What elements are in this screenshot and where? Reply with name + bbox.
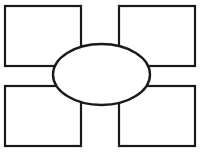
footer-artifact-text (60, 152, 142, 158)
concept-map-diagram (0, 0, 201, 162)
node-ellipse-center[interactable] (53, 44, 150, 105)
diagram-canvas (0, 0, 201, 162)
